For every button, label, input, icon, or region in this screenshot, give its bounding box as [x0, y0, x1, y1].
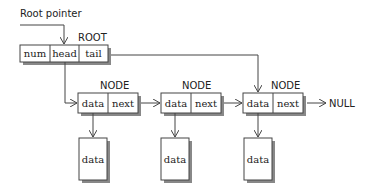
node-field-data: data [82, 98, 104, 109]
data-block-label: data [82, 154, 104, 165]
node-field-next: next [195, 98, 217, 109]
data-block-label: data [247, 154, 269, 165]
data-block-label: data [164, 154, 186, 165]
node-field-data: data [165, 98, 187, 109]
node-label: NODE [271, 80, 300, 91]
root-pointer-arrow [20, 25, 64, 44]
node-1: data next [78, 93, 141, 116]
null-label: NULL [329, 98, 355, 109]
root-field-head: head [52, 48, 77, 59]
root-field-num: num [24, 48, 47, 59]
node-label: NODE [182, 80, 211, 91]
root-pointer-label: Root pointer [20, 8, 82, 19]
data-block-1: data [79, 138, 110, 183]
data-block-2: data [161, 138, 192, 183]
node-2: data next [161, 93, 224, 116]
root-label: ROOT [78, 32, 108, 43]
linked-list-diagram: Root pointer ROOT num head tail NODE dat… [0, 0, 368, 192]
node-field-next: next [277, 98, 299, 109]
data-block-3: data [244, 138, 275, 183]
node-3: data next [243, 93, 306, 116]
node-field-next: next [112, 98, 134, 109]
node-field-data: data [247, 98, 269, 109]
node-label: NODE [100, 80, 129, 91]
root-field-tail: tail [85, 48, 101, 59]
head-pointer-arrow [65, 62, 77, 103]
